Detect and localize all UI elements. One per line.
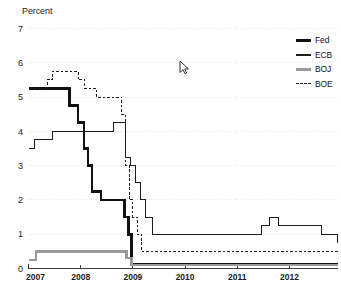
series-line-ecb xyxy=(29,123,338,243)
y-axis-tick-label: 5 xyxy=(18,92,23,102)
series-line-boe xyxy=(29,71,338,251)
y-axis-tick-label: 3 xyxy=(18,161,23,171)
x-axis-tick-label: 2008 xyxy=(71,272,90,282)
chart-legend: Fed ECB BOJ BOE xyxy=(296,36,333,89)
legend-label-boj: BOJ xyxy=(315,65,331,74)
legend-swatch-boe-icon xyxy=(296,80,311,89)
y-axis-tick-label: 0 xyxy=(18,264,23,274)
legend-label-ecb: ECB xyxy=(315,51,332,60)
series-line-fed xyxy=(29,89,338,265)
legend-swatch-fed-icon xyxy=(296,36,311,45)
data-series-layer xyxy=(29,71,338,265)
interest-rate-chart: Percent 01234567 20072008200920102011201… xyxy=(0,0,341,292)
y-axis-tick-label: 6 xyxy=(18,58,23,68)
x-axis-tick-label: 2012 xyxy=(280,272,299,282)
legend-item-boj[interactable]: BOJ xyxy=(296,65,333,74)
legend-item-ecb[interactable]: ECB xyxy=(296,51,333,60)
y-axis-tick-label: 1 xyxy=(18,229,23,239)
x-axis-tick-label: 2010 xyxy=(176,272,195,282)
x-axis-tick-label: 2009 xyxy=(123,272,142,282)
y-axis-tick-label: 2 xyxy=(18,195,23,205)
y-axis-tick-label: 4 xyxy=(18,127,23,137)
y-axis-tick-labels: 01234567 xyxy=(18,24,23,274)
y-axis-tick-label: 7 xyxy=(18,24,23,34)
legend-item-boe[interactable]: BOE xyxy=(296,80,333,89)
x-axis-tick-labels: 200720082009201020112012 xyxy=(26,272,299,282)
legend-label-boe: BOE xyxy=(315,80,333,89)
legend-swatch-boj-icon xyxy=(296,65,311,74)
x-axis-tick-label: 2011 xyxy=(228,272,247,282)
mouse-pointer-icon xyxy=(179,60,190,75)
x-axis-tick-label: 2007 xyxy=(26,272,45,282)
legend-swatch-ecb-icon xyxy=(296,51,311,60)
legend-item-fed[interactable]: Fed xyxy=(296,36,333,45)
chart-plot-area: 01234567 200720082009201020112012 xyxy=(0,0,341,292)
legend-label-fed: Fed xyxy=(315,36,329,45)
